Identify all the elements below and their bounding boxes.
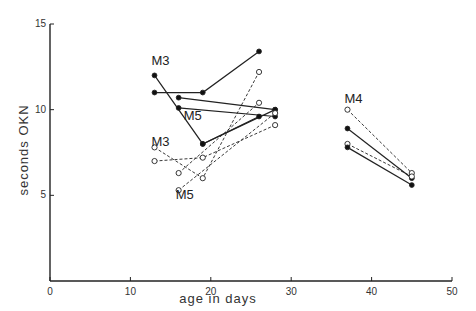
annotation-label: M3 [152,53,170,68]
series-line [155,51,260,92]
x-tick-label: 0 [47,286,53,297]
x-tick-label: 30 [286,286,298,297]
y-axis-label: seconds OKN [16,104,31,195]
filled-data-point [345,145,350,150]
chart: 0102030405051015 M3M5M3M5M4 age in days … [0,0,476,311]
x-tick-label: 10 [125,286,137,297]
filled-data-point [257,114,262,119]
series-line [203,117,259,144]
y-tick-label: 10 [35,104,47,115]
series-line [179,113,275,190]
plot-area: M3M5M3M5M4 [152,49,415,202]
open-data-point [273,122,278,127]
axes: 0102030405051015 [35,18,458,297]
open-data-point [273,110,278,115]
filled-data-point [200,142,205,147]
filled-data-point [257,49,262,54]
filled-data-point [152,90,157,95]
open-data-point [152,158,157,163]
y-tick-label: 5 [40,189,46,200]
filled-data-point [409,183,414,188]
open-data-point [345,107,350,112]
filled-data-point [176,106,181,111]
open-data-point [200,155,205,160]
series-line [347,110,411,173]
open-data-point [409,174,414,179]
open-data-point [176,170,181,175]
filled-data-point [200,90,205,95]
x-axis-label: age in days [179,291,257,306]
annotation-label: M5 [176,187,194,202]
y-tick-label: 15 [35,18,47,29]
filled-data-point [152,73,157,78]
annotation-label: M4 [344,91,362,106]
open-data-point [200,176,205,181]
x-tick-label: 40 [366,286,378,297]
filled-data-point [345,126,350,131]
filled-data-point [176,95,181,100]
open-data-point [256,100,261,105]
x-tick-label: 50 [446,286,458,297]
open-data-point [256,69,261,74]
annotation-label: M3 [152,134,170,149]
annotation-label: M5 [184,108,202,123]
series-line [347,144,411,177]
